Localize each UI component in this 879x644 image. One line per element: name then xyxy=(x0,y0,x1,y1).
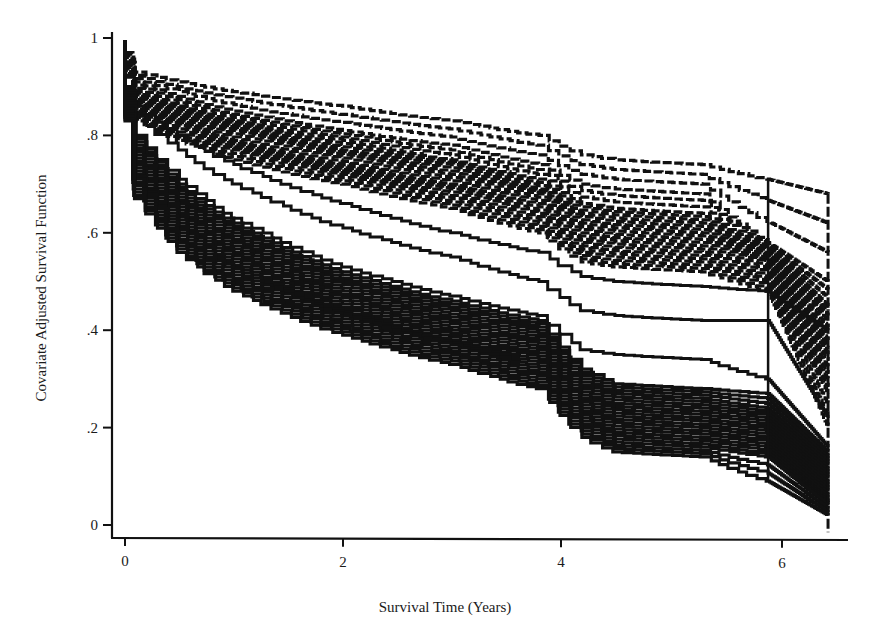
survival-curves xyxy=(125,40,828,532)
x-axis-title: Survival Time (Years) xyxy=(379,599,512,616)
y-tick-label: .2 xyxy=(87,420,98,436)
x-tick-label: 0 xyxy=(121,553,129,569)
y-tick-label: 1 xyxy=(91,30,99,46)
x-tick-label: 2 xyxy=(339,554,347,570)
y-tick-label: 0 xyxy=(91,517,99,533)
y-axis-title: Covariate Adjusted Survival Function xyxy=(33,174,49,402)
y-axis: 0.2.4.6.81 xyxy=(87,30,112,538)
x-axis: 0246 xyxy=(111,538,848,571)
x-tick-label: 6 xyxy=(778,555,786,571)
y-tick-label: .4 xyxy=(87,322,99,338)
y-tick-label: .6 xyxy=(87,225,99,241)
x-tick-label: 4 xyxy=(557,554,565,570)
survival-chart: 0.2.4.6.81 0246 Covariate Adjusted Survi… xyxy=(0,0,879,644)
y-tick-label: .8 xyxy=(87,127,98,143)
